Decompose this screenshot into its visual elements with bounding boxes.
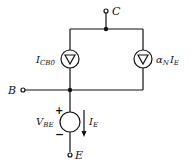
alpha-ie-current-source — [134, 50, 152, 68]
emitter-terminal — [68, 153, 72, 157]
circuit-diagram: C B E ICB0 αNIE VBE + − IE — [0, 0, 191, 168]
vbe-minus-sign: − — [55, 128, 64, 141]
collector-terminal — [104, 9, 108, 13]
icb0-current-source — [61, 50, 79, 68]
vbe-label: VBE — [36, 116, 54, 129]
alpha-ie-label: αNIE — [156, 54, 179, 67]
icb0-label: ICB0 — [35, 54, 55, 67]
ie-arrow-head-icon — [82, 131, 87, 137]
ie-label: IE — [88, 116, 98, 129]
base-label: B — [7, 84, 16, 97]
vbe-plus-sign: + — [55, 105, 63, 116]
junction-dot-base — [68, 88, 72, 92]
icb0-arrow-icon — [65, 55, 75, 64]
emitter-label: E — [74, 149, 83, 162]
junction-dot-top — [104, 27, 108, 31]
collector-label: C — [112, 5, 121, 18]
alpha-ie-arrow-icon — [138, 55, 148, 64]
base-terminal — [21, 88, 25, 92]
